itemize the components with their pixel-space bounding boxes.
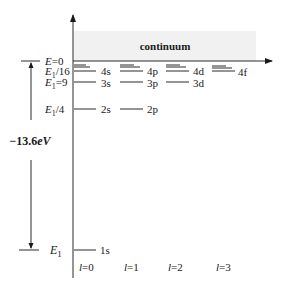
level-3p-label: 3p <box>147 77 159 89</box>
column-l2: 3d 4d <box>166 65 205 89</box>
column-l0: 1s 2s 3s 4s <box>74 65 111 256</box>
level-1s-label: 1s <box>100 244 110 256</box>
energy-level-diagram: continuum −13.6eV E=0 E1/16 E1=9 E1/4 E1… <box>0 0 287 289</box>
l-label-0: l=0 <box>79 261 94 273</box>
l-label-1: l=1 <box>124 261 139 273</box>
energy-span-label: −13.6eV <box>9 134 51 148</box>
level-2s-label: 2s <box>101 103 111 115</box>
level-3d-label: 3d <box>193 77 205 89</box>
label-e1-over-9: E1=9 <box>44 76 68 91</box>
continuum-label: continuum <box>140 40 191 52</box>
level-4f-label: 4f <box>238 66 248 78</box>
l-label-3: l=3 <box>216 261 231 273</box>
label-e1-over-4: E1/4 <box>44 103 65 118</box>
label-e1: E1 <box>49 243 62 259</box>
column-l1: 2p 3p 4p <box>120 65 159 115</box>
level-3s-label: 3s <box>101 77 111 89</box>
level-4d-label: 4d <box>193 65 205 77</box>
level-2p-label: 2p <box>147 103 159 115</box>
level-4p-label: 4p <box>147 65 159 77</box>
level-4s-label: 4s <box>101 65 111 77</box>
column-l3: 4f <box>212 66 248 78</box>
l-label-2: l=2 <box>168 261 183 273</box>
